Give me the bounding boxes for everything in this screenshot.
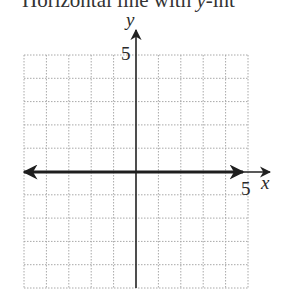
y-axis-label: y — [124, 9, 135, 30]
x-tick-label-5: 5 — [241, 178, 251, 199]
coordinate-plane: y 5 x 5 — [0, 0, 290, 301]
x-axis-label: x — [260, 172, 270, 193]
y-tick-label-5: 5 — [121, 43, 131, 64]
